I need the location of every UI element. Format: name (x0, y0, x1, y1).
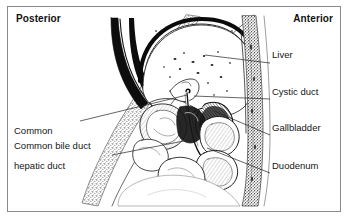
orientation-label-posterior: Posterior (16, 13, 61, 24)
annotation-duodenum: Duodenum (272, 160, 318, 172)
annotation-liver: Liver (272, 49, 293, 61)
annotation-common-bile-duct: Common bile duct (14, 140, 91, 152)
annotation-common-hepatic-duct-line1: Common (14, 125, 65, 137)
orientation-label-anterior: Anterior (293, 13, 333, 24)
annotation-common-hepatic-duct-line2: hepatic duct (14, 160, 65, 172)
anatomy-figure: Posterior Anterior Liver Cystic duct Gal… (0, 0, 349, 221)
annotation-gallbladder: Gallbladder (272, 122, 321, 134)
annotation-cystic-duct: Cystic duct (272, 86, 318, 98)
